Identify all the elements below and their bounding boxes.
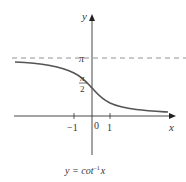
caption-suffix: x bbox=[100, 165, 106, 176]
chart-figure: y x π π 2 −1 0 1 y = cot−1x bbox=[0, 0, 186, 182]
tick-label-neg1: −1 bbox=[67, 122, 78, 133]
caption-prefix: y = cot bbox=[64, 165, 94, 176]
x-axis-arrow-icon bbox=[169, 113, 176, 119]
caption: y = cot−1x bbox=[64, 165, 106, 176]
tick-label-1: 1 bbox=[107, 122, 112, 133]
y-axis-arrow-icon bbox=[89, 14, 95, 21]
caption-sup: −1 bbox=[93, 165, 99, 171]
pi-half-numerator: π bbox=[80, 73, 85, 83]
pi-half-denominator: 2 bbox=[80, 84, 85, 94]
y-axis-label: y bbox=[81, 10, 87, 22]
x-axis-label: x bbox=[168, 121, 174, 133]
pi-label: π bbox=[79, 53, 85, 64]
tick-label-0: 0 bbox=[94, 120, 99, 131]
chart-svg: y x π π 2 −1 0 1 y = cot−1x bbox=[0, 0, 186, 182]
cot-inverse-curve bbox=[15, 62, 168, 112]
